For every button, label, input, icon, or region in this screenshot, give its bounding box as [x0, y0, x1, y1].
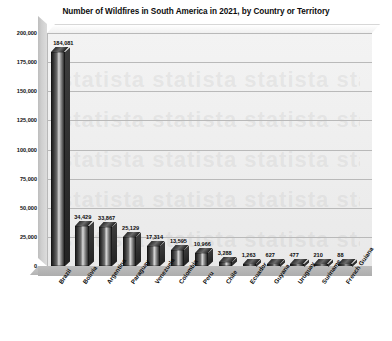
- bar-side-face: [136, 232, 141, 266]
- bar-side-face: [89, 221, 94, 266]
- bar-column[interactable]: [75, 226, 88, 266]
- bar-column[interactable]: [267, 264, 280, 267]
- bar-value-label: 184,081: [53, 40, 73, 46]
- bar-side-face: [65, 47, 70, 266]
- bar-column[interactable]: [51, 52, 64, 266]
- bar-value-label: 33,867: [98, 215, 115, 221]
- bar-front-face: [290, 264, 303, 267]
- bar-value-label: 17,314: [146, 234, 163, 240]
- bar-value-label: 627: [266, 252, 275, 258]
- bar-front-face: [267, 264, 280, 267]
- bar-front-face: [75, 226, 88, 266]
- bar-value-label: 3,288: [218, 250, 232, 256]
- bar-column[interactable]: [219, 262, 232, 266]
- bar-value-label: 88: [337, 252, 343, 258]
- bar-side-face: [112, 222, 117, 266]
- bar-front-face: [219, 262, 232, 266]
- bar-value-label: 34,429: [74, 214, 91, 220]
- chart-root: Number of Wildfires in South America in …: [0, 0, 392, 341]
- bar-value-label: 1,263: [242, 252, 256, 258]
- bar-series: 184,08134,42933,86725,12917,31413,59510,…: [0, 0, 392, 341]
- bar-column[interactable]: [99, 227, 112, 266]
- bar-front-face: [51, 52, 64, 266]
- bar-front-face: [99, 227, 112, 266]
- bar-value-label: 13,595: [170, 238, 187, 244]
- bar-value-label: 477: [289, 252, 298, 258]
- bar-front-face: [243, 264, 256, 267]
- bar-value-label: 210: [313, 252, 322, 258]
- bar-column[interactable]: [290, 264, 303, 267]
- bar-value-label: 25,129: [122, 225, 139, 231]
- bar-value-label: 10,966: [194, 241, 211, 247]
- bar-column[interactable]: [243, 264, 256, 267]
